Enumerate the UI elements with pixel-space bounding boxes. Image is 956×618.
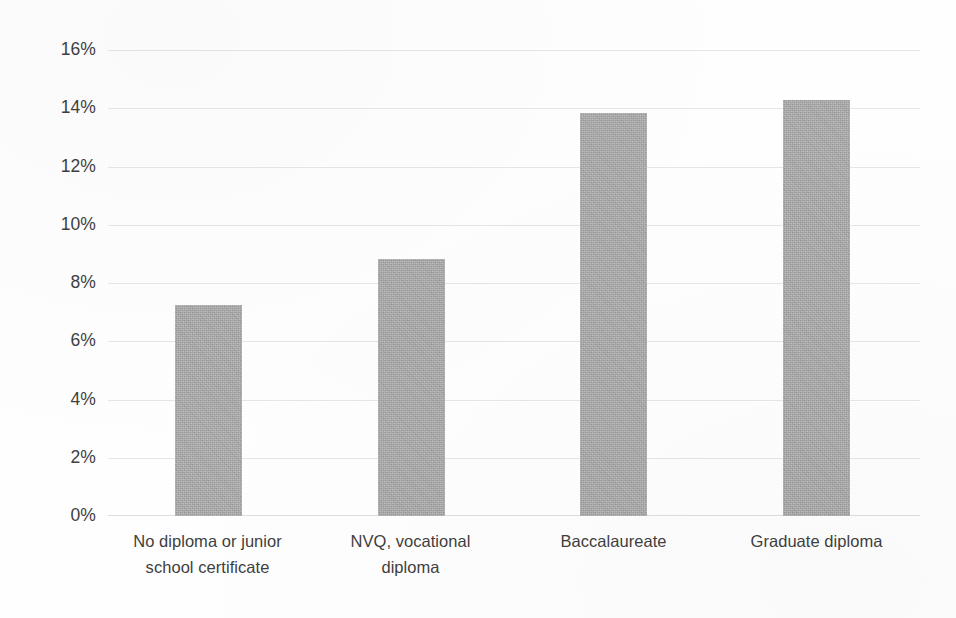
y-tick-label-6: 6%	[0, 333, 96, 351]
bar-graduate-diploma[interactable]	[783, 100, 850, 516]
y-tick-label-8: 8%	[0, 274, 96, 292]
y-tick-label-2: 2%	[0, 449, 96, 467]
x-tick-label-line: NVQ, vocational	[309, 528, 512, 554]
x-tick-label-line: Graduate diploma	[715, 528, 918, 554]
y-tick-label-10: 10%	[0, 216, 96, 234]
x-tick-label-line: Baccalaureate	[512, 528, 715, 554]
y-tick-label-12: 12%	[0, 158, 96, 176]
x-tick-label-line: school certificate	[106, 554, 309, 580]
x-axis: No diploma or junior school certificate …	[108, 528, 920, 598]
bar-no-diploma-or-junior-school-certificate[interactable]	[175, 305, 242, 516]
y-tick-label-4: 4%	[0, 391, 96, 409]
x-tick-label-baccalaureate: Baccalaureate	[512, 528, 715, 554]
y-tick-label-14: 14%	[0, 100, 96, 118]
y-tick-label-16: 16%	[0, 41, 96, 59]
gridline-16	[108, 50, 920, 51]
x-tick-label-nvq-vocational-diploma: NVQ, vocational diploma	[309, 528, 512, 580]
y-tick-label-0: 0%	[0, 507, 96, 525]
x-tick-label-line: diploma	[309, 554, 512, 580]
x-tick-label-graduate-diploma: Graduate diploma	[715, 528, 918, 554]
x-tick-label-no-diploma-or-junior-school-certificate: No diploma or junior school certificate	[106, 528, 309, 580]
x-tick-label-line: No diploma or junior	[106, 528, 309, 554]
plot-area	[108, 50, 920, 516]
bar-baccalaureate[interactable]	[580, 113, 647, 516]
bar-chart: 16% 14% 12% 10% 8% 6% 4% 2% 0% No diplom…	[0, 0, 956, 618]
bar-nvq-vocational-diploma[interactable]	[378, 259, 445, 516]
y-axis: 16% 14% 12% 10% 8% 6% 4% 2% 0%	[0, 50, 96, 516]
